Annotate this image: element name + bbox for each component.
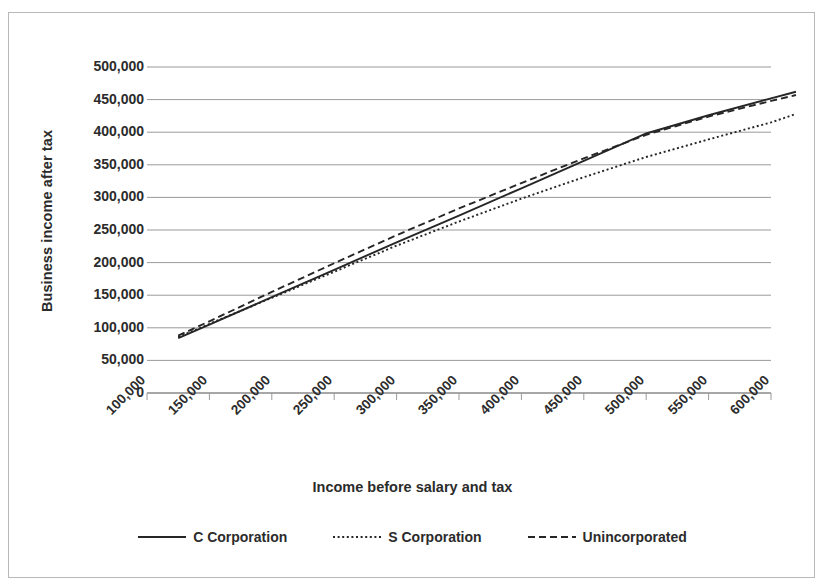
chart-plot-area: Business income after tax 050,000100,000…: [9, 13, 816, 579]
legend-line-swatch: [333, 532, 381, 542]
legend-line-swatch: [528, 532, 576, 542]
x-axis-title: Income before salary and tax: [9, 479, 816, 495]
legend-item[interactable]: S Corporation: [333, 529, 481, 545]
legend-label: C Corporation: [193, 529, 287, 545]
series-line: [178, 92, 796, 338]
legend-label: Unincorporated: [583, 529, 687, 545]
gridlines: [147, 67, 771, 393]
series-line: [178, 95, 796, 336]
series-line: [178, 114, 796, 337]
legend-line-swatch: [138, 532, 186, 542]
legend-label: S Corporation: [388, 529, 481, 545]
chart-frame: Business income after tax 050,000100,000…: [8, 12, 815, 578]
series-lines: [178, 92, 796, 338]
chart-legend: C CorporationS CorporationUnincorporated: [9, 529, 816, 545]
legend-item[interactable]: Unincorporated: [528, 529, 687, 545]
legend-item[interactable]: C Corporation: [138, 529, 287, 545]
